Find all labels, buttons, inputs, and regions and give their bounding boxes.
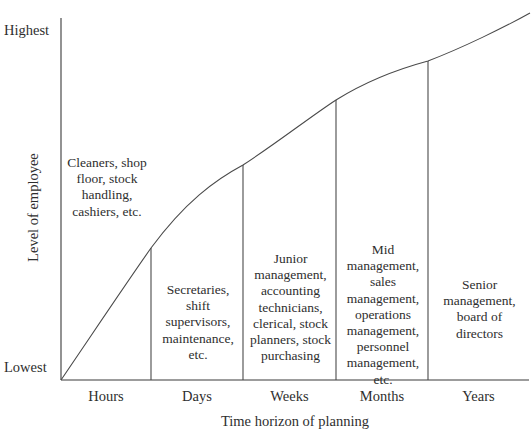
band-line: technicians, bbox=[245, 300, 336, 316]
chart-canvas bbox=[0, 0, 532, 443]
y-axis-title: Level of employee bbox=[25, 128, 42, 288]
band-label-days: Secretaries, shift supervisors, maintena… bbox=[153, 282, 243, 363]
band-line: directors bbox=[430, 326, 529, 342]
x-axis-tick-weeks: Weeks bbox=[243, 388, 336, 405]
band-line: management, bbox=[338, 291, 428, 307]
y-axis-tick-lowest: Lowest bbox=[4, 359, 60, 376]
band-line: cashiers, etc. bbox=[63, 204, 151, 220]
x-axis-tick-hours: Hours bbox=[61, 388, 151, 405]
band-line: personnel bbox=[338, 339, 428, 355]
x-axis-tick-months: Months bbox=[336, 388, 428, 405]
band-line: Cleaners, shop bbox=[63, 155, 151, 171]
chart-figure: Highest Lowest Level of employee Hours D… bbox=[0, 0, 532, 443]
band-line: etc. bbox=[153, 347, 243, 363]
x-axis-title: Time horizon of planning bbox=[61, 413, 529, 430]
band-line: floor, stock bbox=[63, 171, 151, 187]
band-label-months: Mid management, sales management, operat… bbox=[338, 242, 428, 388]
band-line: management, bbox=[338, 258, 428, 274]
band-line: Junior bbox=[245, 251, 336, 267]
band-line: purchasing bbox=[245, 348, 336, 364]
band-line: board of bbox=[430, 309, 529, 325]
y-axis-tick-highest: Highest bbox=[4, 22, 60, 39]
band-line: management, bbox=[245, 267, 336, 283]
band-line: maintenance, bbox=[153, 331, 243, 347]
band-line: Mid bbox=[338, 242, 428, 258]
band-label-weeks: Junior management, accounting technician… bbox=[245, 251, 336, 364]
band-line: clerical, stock bbox=[245, 316, 336, 332]
band-line: Senior bbox=[430, 277, 529, 293]
band-line: supervisors, bbox=[153, 314, 243, 330]
band-line: planners, stock bbox=[245, 332, 336, 348]
band-line: management, bbox=[430, 293, 529, 309]
band-line: management, bbox=[338, 323, 428, 339]
band-line: handling, bbox=[63, 187, 151, 203]
band-line: operations bbox=[338, 307, 428, 323]
band-line: management, bbox=[338, 355, 428, 371]
x-axis-tick-days: Days bbox=[151, 388, 243, 405]
band-line: etc. bbox=[338, 372, 428, 388]
band-label-years: Senior management, board of directors bbox=[430, 277, 529, 342]
band-line: accounting bbox=[245, 283, 336, 299]
band-line: sales bbox=[338, 274, 428, 290]
band-label-hours: Cleaners, shop floor, stock handling, ca… bbox=[63, 155, 151, 220]
band-line: Secretaries, bbox=[153, 282, 243, 298]
band-line: shift bbox=[153, 298, 243, 314]
x-axis-tick-years: Years bbox=[428, 388, 529, 405]
